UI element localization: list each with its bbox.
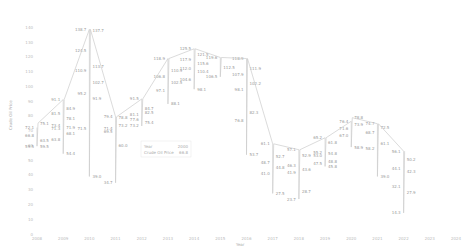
data-label: 81.5 bbox=[51, 111, 60, 116]
data-label: 78.8 bbox=[119, 115, 128, 120]
data-label: 78.1 bbox=[66, 116, 75, 121]
data-label: 106.5 bbox=[206, 74, 218, 79]
data-label: 117.9 bbox=[180, 57, 192, 62]
x-tick-label: 2011 bbox=[110, 236, 121, 241]
x-tick-label: 2022 bbox=[399, 236, 410, 241]
x-tick-label: 2018 bbox=[294, 236, 305, 241]
data-label: 54.8 bbox=[328, 151, 337, 156]
x-tick-label: 2015 bbox=[215, 236, 226, 241]
data-label: 27.9 bbox=[407, 190, 416, 195]
data-label: 95.2 bbox=[77, 91, 86, 96]
y-tick-label: 100 bbox=[25, 84, 33, 89]
data-line bbox=[37, 29, 405, 213]
data-label: 46.3 bbox=[287, 163, 296, 168]
data-label: 71.9 bbox=[66, 125, 75, 130]
x-tick-label: 2014 bbox=[189, 236, 200, 241]
x-tick-label: 2020 bbox=[346, 236, 357, 241]
data-label: 58.2 bbox=[366, 146, 375, 151]
data-label: 61.1 bbox=[261, 141, 270, 146]
x-tick-label: 2012 bbox=[137, 236, 148, 241]
data-label: 112.0 bbox=[180, 66, 192, 71]
data-label: 68.7 bbox=[366, 130, 375, 135]
data-label: 97.1 bbox=[156, 88, 165, 93]
tooltip-label: Crude Oil Price bbox=[144, 150, 174, 155]
data-label: 27.5 bbox=[276, 191, 285, 196]
data-label: 68.1 bbox=[66, 131, 75, 136]
x-tick-label: 2017 bbox=[268, 236, 279, 241]
x-tick-label: 2019 bbox=[320, 236, 331, 241]
data-label: 61.1 bbox=[380, 141, 389, 146]
data-label: 110.4 bbox=[197, 69, 209, 74]
data-label: 72.1 bbox=[25, 125, 34, 130]
data-label: 82.5 bbox=[145, 110, 154, 115]
x-axis-title: Year bbox=[235, 242, 245, 247]
y-tick-label: 30 bbox=[28, 187, 34, 192]
data-label: 73.2 bbox=[119, 123, 128, 128]
data-label: 58.9 bbox=[354, 145, 363, 150]
data-label: 42.3 bbox=[407, 169, 416, 174]
data-label: 138.7 bbox=[75, 27, 87, 32]
data-label: 110.9 bbox=[75, 68, 87, 73]
data-label: 23.7 bbox=[287, 197, 296, 202]
data-label: 106.8 bbox=[153, 74, 165, 79]
data-label: 91.9 bbox=[92, 96, 101, 101]
data-label: 76.8 bbox=[235, 118, 244, 123]
data-label: 71.5 bbox=[77, 126, 86, 131]
data-label: 41.0 bbox=[261, 171, 270, 176]
data-label: 115.6 bbox=[197, 61, 209, 66]
y-tick-label: 130 bbox=[25, 40, 33, 45]
data-label: 45.8 bbox=[328, 164, 337, 169]
data-label: 59.5 bbox=[25, 144, 34, 149]
data-label: 77.6 bbox=[130, 117, 139, 122]
x-tick-label: 2021 bbox=[372, 236, 383, 241]
data-label: 53.7 bbox=[250, 152, 259, 157]
data-label: 52.9 bbox=[302, 153, 311, 158]
tooltip-value: 66.8 bbox=[179, 150, 188, 155]
x-axis: 2008200920102011201220132014201520162017… bbox=[32, 236, 462, 241]
y-tick-label: 140 bbox=[25, 25, 33, 30]
data-label: 14.3 bbox=[392, 210, 401, 215]
data-label: 79.4 bbox=[104, 114, 113, 119]
y-tick-label: 40 bbox=[28, 172, 34, 177]
data-label: 82.3 bbox=[250, 110, 259, 115]
y-tick-label: 80 bbox=[28, 113, 34, 118]
data-label: 91.1 bbox=[51, 97, 60, 102]
data-label: 52.7 bbox=[276, 154, 285, 159]
data-label: 63.8 bbox=[51, 137, 60, 142]
tooltip-value: 2000 bbox=[178, 144, 189, 149]
data-label: 102.7 bbox=[92, 80, 104, 85]
x-tick-label: 2024 bbox=[451, 236, 462, 241]
data-label: 28.7 bbox=[302, 189, 311, 194]
data-label: 76.4 bbox=[339, 119, 348, 124]
data-label: 88.1 bbox=[171, 101, 180, 106]
data-label: 39.0 bbox=[380, 174, 389, 179]
y-tick-label: 10 bbox=[28, 217, 34, 222]
data-label: 60.0 bbox=[119, 143, 128, 148]
data-label: 91.5 bbox=[130, 96, 139, 101]
y-tick-label: 90 bbox=[28, 99, 34, 104]
data-label: 98.1 bbox=[235, 87, 244, 92]
data-label: 118.9 bbox=[153, 56, 165, 61]
data-label: 39.0 bbox=[92, 174, 101, 179]
data-label: 98.1 bbox=[197, 87, 206, 92]
line-chart: 0102030405060708090100110120130140 20082… bbox=[0, 0, 466, 250]
y-axis: 0102030405060708090100110120130140 bbox=[25, 25, 33, 237]
data-label: 112.5 bbox=[223, 65, 235, 70]
y-tick-label: 20 bbox=[28, 202, 34, 207]
x-tick-label: 2010 bbox=[84, 236, 95, 241]
x-tick-label: 2008 bbox=[32, 236, 43, 241]
x-tick-label: 2009 bbox=[58, 236, 69, 241]
data-label: 71.3 bbox=[51, 126, 60, 131]
data-label: 41.9 bbox=[287, 170, 296, 175]
data-label: 113.7 bbox=[92, 64, 104, 69]
x-tick-label: 2013 bbox=[163, 236, 174, 241]
x-tick-label: 2023 bbox=[425, 236, 436, 241]
data-label: 54.4 bbox=[66, 151, 75, 156]
x-tick-label: 2016 bbox=[241, 236, 252, 241]
data-label: 47.5 bbox=[313, 161, 322, 166]
y-axis-title: Crude Oil Price bbox=[8, 100, 13, 130]
series-crude-oil-price: 72.175.166.863.559.559.591.184.981.578.1… bbox=[25, 27, 416, 216]
data-label: 48.7 bbox=[261, 160, 270, 165]
data-label: 67.0 bbox=[339, 133, 348, 138]
data-label: 75.4 bbox=[145, 120, 154, 125]
